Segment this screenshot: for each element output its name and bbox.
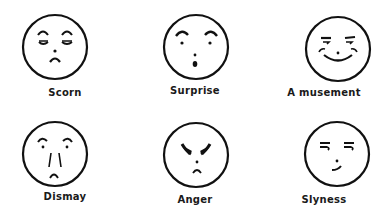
face-label-surprise: Surprise (130, 85, 260, 96)
face-label-scorn: Scorn (0, 87, 130, 98)
face-label-slyness: Slyness (259, 194, 389, 205)
face-slyness: Slyness (259, 111, 389, 222)
face-scorn: Scorn (0, 0, 130, 111)
face-label-anger: Anger (130, 194, 260, 205)
face-surprise: Surprise (130, 0, 260, 111)
dismay-face-icon (0, 111, 130, 222)
face-amusement: A musement (259, 0, 389, 111)
face-anger: Anger (130, 111, 260, 222)
face-label-dismay: Dismay (0, 191, 130, 202)
anger-face-icon (130, 111, 260, 222)
slyness-face-icon (259, 111, 389, 222)
face-label-amusement: A musement (259, 87, 389, 98)
face-dismay: Dismay (0, 111, 130, 222)
